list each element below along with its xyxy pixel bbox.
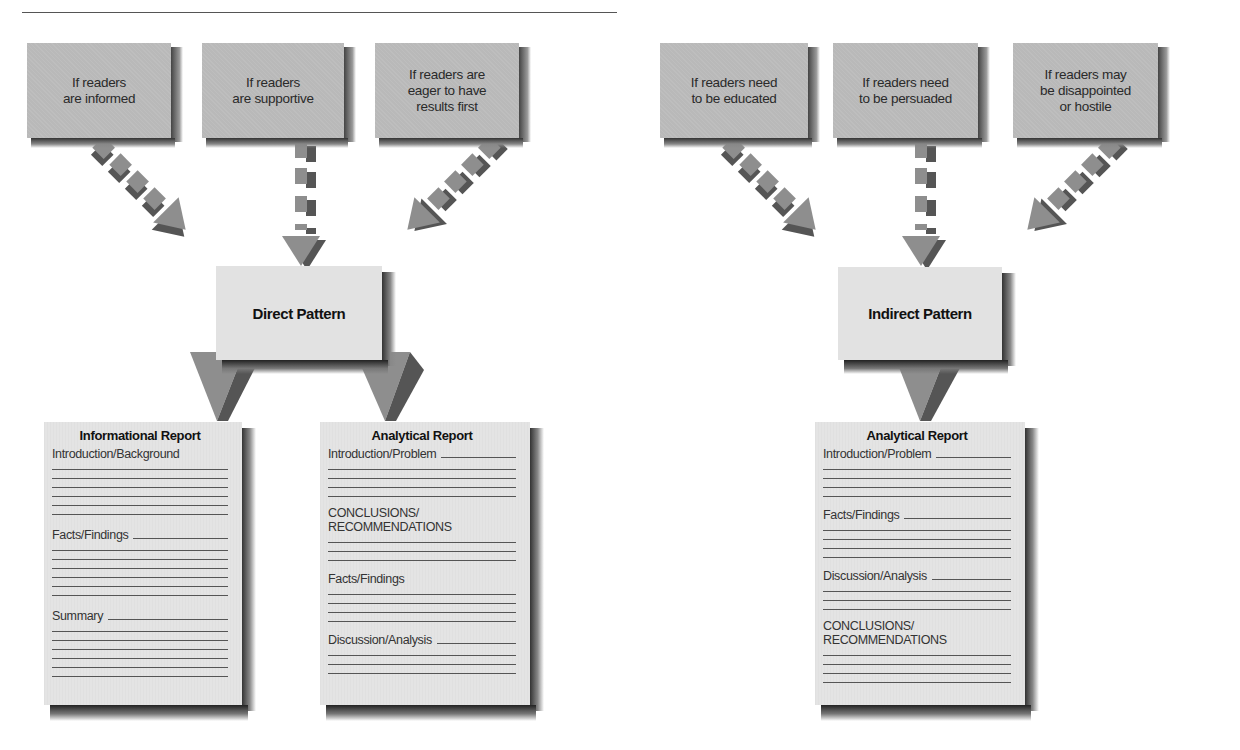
section-label: Discussion/Analysis [328,633,432,647]
condition-text: are informed [63,91,135,106]
condition-text: If readers may [1044,67,1126,82]
report-title: Informational Report [52,428,228,443]
analytical-report-direct: Analytical Report Introduction/Problem C… [320,422,530,705]
section-label: Introduction/Problem [823,447,931,461]
condition-text: to be educated [691,91,776,106]
condition-text: or hostile [1060,99,1112,114]
report-section: Discussion/Analysis [328,632,516,647]
indirect-pattern-label: Indirect Pattern [868,305,972,322]
report-section: CONCLUSIONS/ RECOMMENDATIONS [823,619,1011,647]
section-label: Discussion/Analysis [823,569,927,583]
section-label: Facts/Findings [823,508,899,522]
condition-box-informed: If readersare informed [27,43,171,138]
condition-box-supportive: If readersare supportive [202,43,344,138]
report-section: Introduction/Problem [823,446,1011,461]
section-label: CONCLUSIONS/ RECOMMENDATIONS [823,619,947,647]
condition-text: eager to have [408,83,487,98]
condition-box-eager: If readers areeager to haveresults first [375,43,519,138]
section-label: Facts/Findings [328,572,404,586]
section-label: Introduction/Background [52,447,179,461]
condition-text: results first [416,99,477,114]
section-label: Introduction/Problem [328,447,436,461]
section-label: Summary [52,609,103,623]
report-section: Facts/Findings [328,571,516,586]
condition-text: If readers need [862,75,948,90]
report-section: Summary [52,608,228,623]
arrow-indirect-center [902,142,946,270]
report-section: Facts/Findings [52,527,228,542]
section-label: Facts/Findings [52,528,128,542]
condition-text: be disappointed [1040,83,1131,98]
arrow-direct-center [282,142,326,270]
indirect-pattern-box: Indirect Pattern [838,267,1002,360]
direct-pattern-box: Direct Pattern [216,266,382,360]
report-section: Introduction/Problem [328,446,516,461]
condition-text: are supportive [232,91,313,106]
condition-box-educated: If readers needto be educated [660,43,808,138]
report-section: Discussion/Analysis [823,568,1011,583]
report-title: Analytical Report [328,428,516,443]
report-section: CONCLUSIONS/ RECOMMENDATIONS [328,506,516,534]
condition-text: to be persuaded [859,91,952,106]
condition-text: If readers are [409,67,485,82]
condition-text: If readers [72,75,126,90]
report-section: Facts/Findings [823,507,1011,522]
condition-text: If readers [246,75,300,90]
informational-report: Informational Report Introduction/Backgr… [44,422,242,705]
analytical-report-indirect: Analytical Report Introduction/Problem F… [815,422,1025,705]
direct-pattern-label: Direct Pattern [253,305,346,322]
report-title: Analytical Report [823,428,1011,443]
report-section: Introduction/Background [52,446,228,461]
condition-box-hostile: If readers maybe disappointedor hostile [1013,43,1158,138]
condition-text: If readers need [691,75,777,90]
condition-box-persuaded: If readers needto be persuaded [833,43,978,138]
section-label: CONCLUSIONS/ RECOMMENDATIONS [328,506,452,534]
